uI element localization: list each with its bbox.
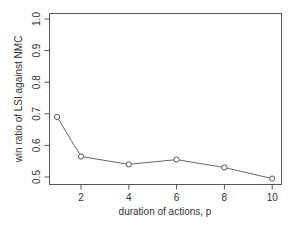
y-tick-label: 1.0 (31, 12, 42, 26)
y-tick-label: 0.9 (31, 43, 42, 57)
data-point-marker (174, 157, 179, 162)
y-axis-label: win ratio of LSI against NMC (13, 36, 24, 164)
data-point-marker (55, 114, 60, 119)
plot-box (50, 14, 282, 185)
y-tick-label: 0.8 (31, 75, 42, 89)
x-tick-label: 4 (126, 192, 132, 203)
x-axis-label: duration of actions, p (119, 206, 212, 217)
x-axis: 246810 (78, 185, 278, 203)
y-axis: 0.50.60.70.80.91.0 (31, 12, 50, 184)
series-line (57, 117, 272, 179)
data-point-marker (222, 165, 227, 170)
line-chart: 0.50.60.70.80.91.0 246810 duration of ac… (0, 0, 297, 227)
x-tick-label: 6 (174, 192, 180, 203)
x-tick-label: 2 (78, 192, 84, 203)
y-tick-label: 0.6 (31, 138, 42, 152)
x-tick-label: 8 (222, 192, 228, 203)
y-tick-label: 0.5 (31, 170, 42, 184)
data-point-marker (126, 162, 131, 167)
data-point-marker (270, 176, 275, 181)
x-tick-label: 10 (267, 192, 279, 203)
data-point-marker (78, 154, 83, 159)
y-tick-label: 0.7 (31, 106, 42, 120)
